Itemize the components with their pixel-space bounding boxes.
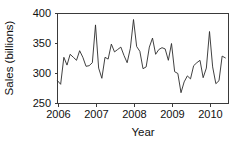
- x-tick-label-2008: 2008: [122, 108, 146, 120]
- x-tick-label-2010: 2010: [198, 108, 222, 120]
- x-tick-label-2007: 2007: [84, 108, 108, 120]
- x-tick-label-2009: 2009: [160, 108, 184, 120]
- y-tick-label-400: 400: [33, 7, 51, 19]
- chart-canvas: 400 350 300 250 2006 2007 2008 2009 2010…: [0, 0, 239, 141]
- x-tick-label-2006: 2006: [46, 108, 70, 120]
- y-axis-title: Sales (billions): [3, 20, 15, 95]
- y-tick-label-300: 300: [33, 67, 51, 79]
- sales-data-line: [58, 20, 226, 93]
- y-tick-label-350: 350: [33, 37, 51, 49]
- x-axis-title: Year: [131, 126, 154, 138]
- sales-time-series-chart: 400 350 300 250 2006 2007 2008 2009 2010…: [0, 0, 239, 141]
